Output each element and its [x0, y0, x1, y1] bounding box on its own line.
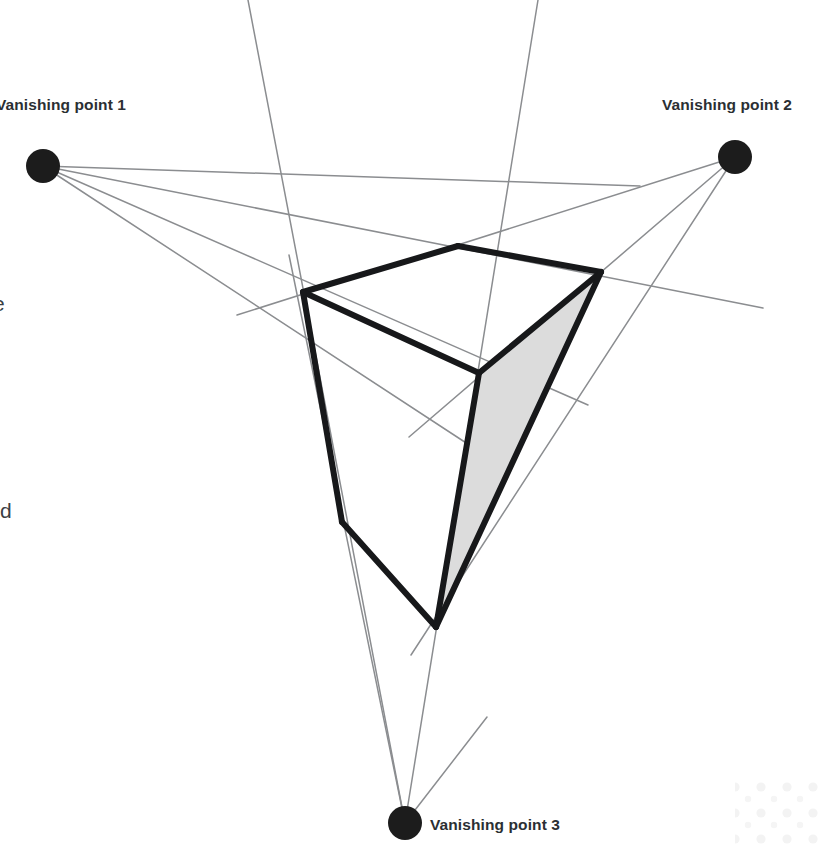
vanishing-point-3-dot[interactable]	[388, 806, 422, 840]
vanishing-point-2-dot[interactable]	[718, 140, 752, 174]
vanishing-point-1-dot[interactable]	[26, 149, 60, 183]
guide-lines-group	[43, 0, 763, 823]
cube-edge-top-left-to-top-front	[303, 292, 479, 373]
guide-line-vp3-left-vertical	[248, 0, 405, 823]
vanishing-point-1-label: Vanishing point 1	[0, 96, 126, 115]
cube-edge-top-back-to-top-right	[458, 246, 601, 272]
guide-line-vp3-to-bottom-front-extended	[405, 717, 487, 823]
cube-edge-top-right-to-bottom-front	[436, 272, 601, 627]
cube-edge-top-back-to-top-left	[303, 246, 458, 292]
clipped-text-fragment-lower: rd	[0, 500, 12, 521]
cube-edge-bottom-left-to-bottom-front	[342, 522, 436, 627]
clipped-text-fragment-upper: e	[0, 293, 5, 314]
vanishing-point-3-label: Vanishing point 3	[430, 816, 560, 835]
vanishing-point-2-label: Vanishing point 2	[662, 96, 792, 115]
diagram-svg	[0, 0, 820, 846]
decorative-dot-cluster	[735, 778, 820, 846]
guide-line-vp3-to-bottom-left-extended	[289, 255, 405, 823]
perspective-diagram-canvas: Vanishing point 1 Vanishing point 2 Vani…	[0, 0, 820, 846]
cube-edge-top-left-to-bottom-left	[303, 292, 342, 522]
